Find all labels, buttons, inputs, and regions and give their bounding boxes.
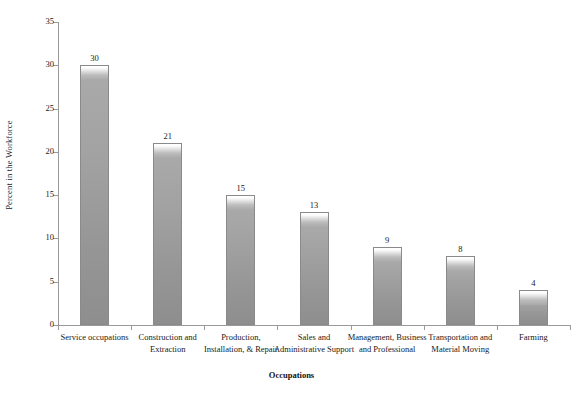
x-tick-mark (351, 325, 352, 330)
x-category-label: Management, Business and Professional (347, 332, 428, 355)
y-tick-label: 35 (46, 16, 55, 26)
bar-value-label: 4 (531, 278, 535, 288)
y-tick-label: 20 (46, 146, 55, 156)
x-category-label: Transportation and Material Moving (420, 332, 501, 355)
x-tick-mark (497, 325, 498, 330)
y-tick-label: 0 (50, 319, 54, 329)
y-tick-label: 25 (46, 103, 55, 113)
bar: 21 (153, 143, 182, 325)
y-tick-label: 15 (46, 189, 55, 199)
y-axis-title-text: Percent in the Workforce (4, 120, 14, 210)
x-tick-mark (424, 325, 425, 330)
x-axis-title: Occupations (0, 370, 583, 380)
x-tick-mark (204, 325, 205, 330)
x-axis-line (58, 325, 570, 326)
bar: 30 (80, 65, 109, 325)
bar: 9 (373, 247, 402, 325)
plot-area: 05101520253035 30211513984 (58, 22, 570, 325)
bar-value-label: 30 (90, 53, 99, 63)
y-axis-title: Percent in the Workforce (0, 0, 18, 330)
bar-value-label: 9 (385, 235, 389, 245)
x-tick-mark (131, 325, 132, 330)
x-category-label: Production, Installation, & Repair (200, 332, 281, 355)
x-category-label: Farming (493, 332, 574, 344)
y-tick-label: 5 (50, 276, 54, 286)
x-tick-mark (58, 325, 59, 330)
x-tick-mark (277, 325, 278, 330)
x-category-label: Service occupations (54, 332, 135, 344)
y-tick-label: 30 (46, 59, 55, 69)
bar-value-label: 15 (237, 183, 246, 193)
x-category-label: Construction and Extraction (127, 332, 208, 355)
bar: 4 (519, 290, 548, 325)
bar: 13 (300, 212, 329, 325)
x-category-label: Sales and Administrative Support (273, 332, 354, 355)
bar: 15 (226, 195, 255, 325)
x-tick-mark (570, 325, 571, 330)
bar: 8 (446, 256, 475, 325)
bar-value-label: 21 (163, 131, 172, 141)
bar-chart: Percent in the Workforce 05101520253035 … (0, 0, 583, 395)
bar-value-label: 8 (458, 244, 462, 254)
bar-value-label: 13 (310, 200, 319, 210)
y-axis-line (58, 22, 59, 325)
y-tick-label: 10 (46, 232, 55, 242)
